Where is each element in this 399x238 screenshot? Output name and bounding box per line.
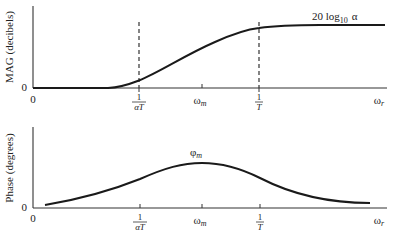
phase-peak-label: φm — [190, 146, 202, 160]
magnitude-curve — [33, 25, 385, 88]
svg-text:αT: αT — [135, 222, 146, 232]
magnitude-asymptote-label: 20 log10α — [312, 10, 358, 25]
magnitude-tick-label-omega-r: ωr — [374, 94, 385, 108]
phase-y-label: Phase (degrees) — [3, 133, 16, 203]
magnitude-tick-label-1-over-T: 1 T — [255, 92, 263, 112]
phase-tick-label-omega-r: ωr — [374, 214, 385, 228]
phase-tick-label-omega-m: ωm — [193, 214, 206, 228]
magnitude-x-zero: 0 — [30, 93, 36, 105]
svg-text:αT: αT — [134, 102, 145, 112]
phase-tick-label-1-over-alphaT: 1 αT — [133, 212, 147, 232]
magnitude-tick-label-1-over-alphaT: 1 αT — [132, 92, 146, 112]
svg-text:1: 1 — [258, 212, 263, 222]
svg-text:T: T — [257, 222, 263, 232]
magnitude-y-label: MAG (decibels) — [3, 11, 16, 83]
magnitude-plot: MAG (decibels) 0 0 20 log10α 1 αT ωm 1 T… — [3, 6, 387, 112]
phase-curve — [45, 163, 370, 205]
lead-compensator-bode-diagram: MAG (decibels) 0 0 20 log10α 1 αT ωm 1 T… — [0, 0, 399, 238]
svg-text:1: 1 — [137, 92, 142, 102]
svg-text:1: 1 — [257, 92, 262, 102]
phase-y-zero: 0 — [22, 201, 28, 213]
magnitude-y-zero: 0 — [22, 81, 28, 93]
phase-x-zero: 0 — [30, 212, 36, 224]
phase-plot: Phase (degrees) 0 0 φm 1 αT ωm 1 T ωr — [3, 127, 387, 232]
svg-text:T: T — [256, 102, 262, 112]
phase-tick-label-1-over-T: 1 T — [256, 212, 264, 232]
magnitude-tick-label-omega-m: ωm — [193, 94, 206, 108]
svg-text:1: 1 — [138, 212, 143, 222]
